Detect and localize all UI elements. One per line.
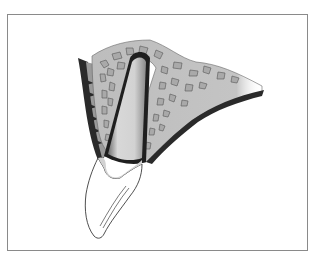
tooth-crown bbox=[85, 157, 142, 238]
tooth-bone-illustration bbox=[0, 0, 317, 260]
